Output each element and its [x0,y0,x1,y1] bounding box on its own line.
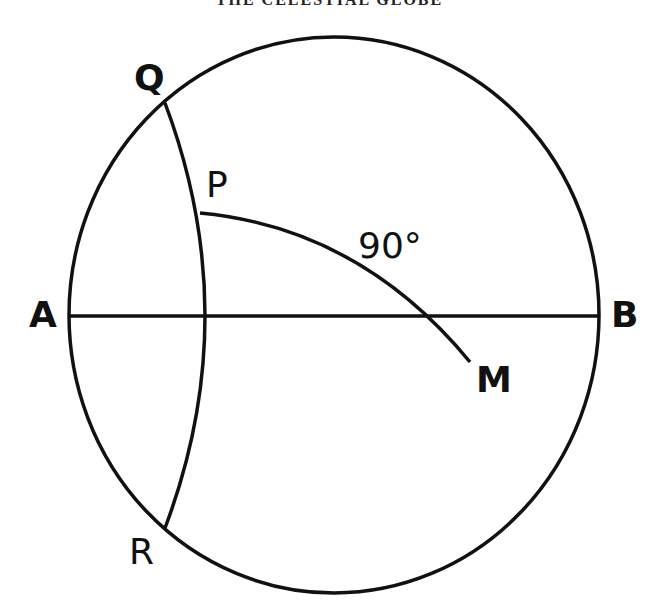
label-p: P [206,167,228,203]
label-q: Q [134,60,165,96]
label-b: B [611,297,638,333]
celestial-sphere-diagram [0,0,659,613]
label-a: A [29,297,57,333]
arc-pm [200,213,470,362]
label-r: R [129,534,154,570]
label-angle: 90° [358,228,422,264]
label-m: M [476,362,512,398]
